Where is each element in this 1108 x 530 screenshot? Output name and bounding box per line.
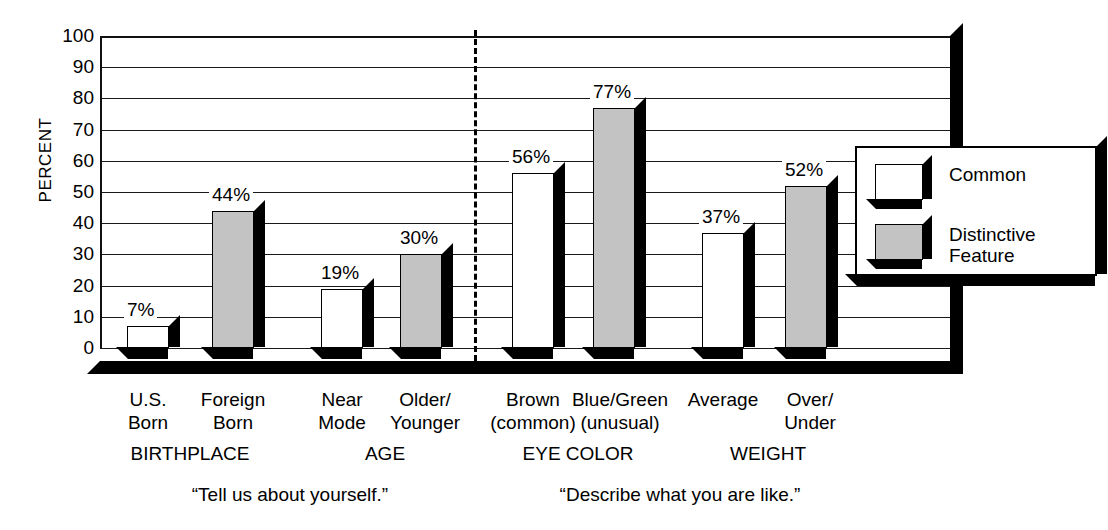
bar-side-shadow bbox=[168, 327, 180, 347]
caption-2: “Describe what you are like.” bbox=[480, 484, 880, 506]
value-label-1: 7% bbox=[124, 300, 157, 319]
y-axis-tick-0: 0 bbox=[48, 338, 94, 357]
bar-5 bbox=[512, 173, 554, 348]
bar-6 bbox=[593, 108, 635, 348]
group-label-3: EYE COLOR bbox=[478, 443, 678, 465]
y-axis-tick-20: 20 bbox=[48, 276, 94, 295]
legend-shadow-bottom bbox=[857, 274, 1095, 286]
plot-floor bbox=[100, 361, 963, 374]
y-axis-tick-10: 10 bbox=[48, 307, 94, 326]
value-label-5: 56% bbox=[509, 147, 553, 166]
group-label-2: AGE bbox=[285, 443, 485, 465]
bar-bottom-shadow bbox=[513, 347, 553, 359]
group-label-1: BIRTHPLACE bbox=[90, 443, 290, 465]
y-axis-tick-90: 90 bbox=[48, 57, 94, 76]
legend-swatch-bottom-shadow bbox=[876, 199, 922, 209]
bar-bottom-shadow bbox=[401, 347, 441, 359]
bar-side-shadow bbox=[553, 174, 565, 347]
legend-swatch-side-shadow bbox=[922, 225, 932, 259]
value-label-8: 52% bbox=[782, 160, 826, 179]
bar-3 bbox=[321, 289, 363, 348]
bar-bottom-shadow bbox=[322, 347, 362, 359]
legend-swatch-1 bbox=[875, 164, 923, 200]
value-label-6: 77% bbox=[590, 82, 634, 101]
group-label-4: WEIGHT bbox=[668, 443, 868, 465]
legend-swatch-side-shadow bbox=[922, 165, 932, 199]
caption-1: “Tell us about yourself.” bbox=[90, 484, 490, 506]
y-axis-tick-70: 70 bbox=[48, 120, 94, 139]
bar-bottom-shadow bbox=[594, 347, 634, 359]
legend-box: CommonDistinctive Feature bbox=[855, 146, 1097, 276]
category-label-8: Over/ Under bbox=[745, 388, 875, 434]
bar-side-shadow bbox=[362, 290, 374, 347]
legend-swatch-2 bbox=[875, 224, 923, 260]
value-label-2: 44% bbox=[209, 185, 253, 204]
bar-side-shadow bbox=[634, 109, 646, 347]
value-label-3: 19% bbox=[318, 263, 362, 282]
bar-bottom-shadow bbox=[703, 347, 743, 359]
bar-2 bbox=[212, 211, 254, 348]
bar-bottom-shadow bbox=[213, 347, 253, 359]
bar-1 bbox=[127, 326, 169, 348]
chart-canvas: PERCENT 1009080706050403020100 7%44%19%3… bbox=[0, 0, 1108, 530]
legend-item-1[interactable]: Common bbox=[875, 164, 1026, 200]
legend-swatch-bottom-shadow bbox=[876, 259, 922, 269]
y-axis-tick-60: 60 bbox=[48, 151, 94, 170]
bar-bottom-shadow bbox=[786, 347, 826, 359]
bar-7 bbox=[702, 233, 744, 348]
legend-label-1: Common bbox=[949, 164, 1026, 185]
bar-side-shadow bbox=[441, 255, 453, 347]
bar-side-shadow bbox=[253, 212, 265, 347]
bar-8 bbox=[785, 186, 827, 348]
legend-item-2[interactable]: Distinctive Feature bbox=[875, 224, 1036, 266]
section-divider-dashed bbox=[474, 30, 477, 370]
value-label-7: 37% bbox=[699, 207, 743, 226]
bar-4 bbox=[400, 254, 442, 348]
y-axis-tick-40: 40 bbox=[48, 213, 94, 232]
y-axis-tick-50: 50 bbox=[48, 182, 94, 201]
legend-shadow-right bbox=[1095, 148, 1107, 274]
legend-label-2: Distinctive Feature bbox=[949, 224, 1036, 266]
value-label-4: 30% bbox=[397, 228, 441, 247]
y-axis-tick-80: 80 bbox=[48, 88, 94, 107]
bar-bottom-shadow bbox=[128, 347, 168, 359]
bar-side-shadow bbox=[743, 234, 755, 347]
bar-side-shadow bbox=[826, 187, 838, 347]
y-axis-tick-30: 30 bbox=[48, 244, 94, 263]
y-axis-tick-100: 100 bbox=[48, 26, 94, 45]
